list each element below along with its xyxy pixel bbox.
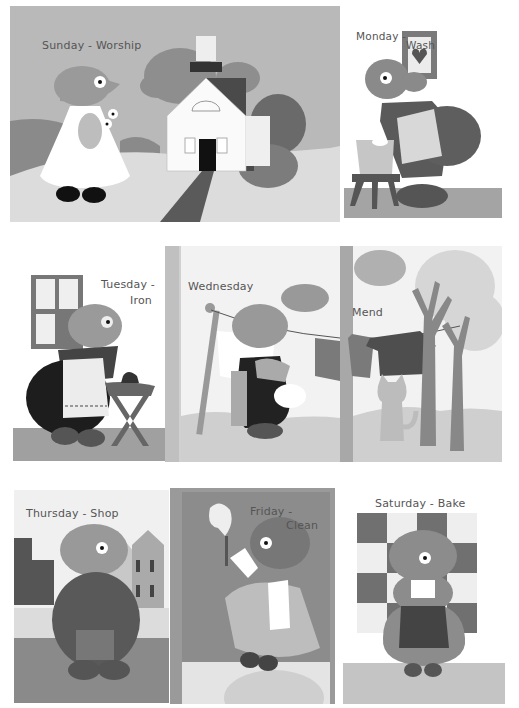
panel-friday: Friday - Clean [170, 488, 335, 704]
label-friday-clean: Clean [286, 519, 318, 532]
mend-illustration [340, 246, 502, 462]
panel-wednesday: Wednesday [165, 246, 340, 462]
iron-icon [121, 372, 139, 383]
wednesday-illustration [165, 246, 340, 462]
panel-mend: Mend [340, 246, 502, 462]
label-sunday: Sunday - Worship [42, 39, 142, 52]
label-monday-wash-visible: Wash [406, 39, 435, 51]
panel-sunday: Sunday - Worship [10, 6, 340, 222]
panel-tuesday: Tuesday - Iron [13, 248, 165, 461]
panel-thursday: Thursday - Shop [14, 490, 169, 703]
label-saturday: Saturday - Bake [375, 497, 466, 510]
thursday-illustration [14, 490, 169, 703]
apron-bib [411, 580, 435, 598]
label-wednesday: Wednesday [188, 280, 254, 293]
label-thursday: Thursday - Shop [26, 507, 119, 520]
label-mend: Mend [352, 306, 383, 319]
cat [378, 374, 407, 441]
label-tuesday: Tuesday - [101, 278, 155, 291]
apron [399, 606, 449, 648]
label-monday: Monday - [356, 30, 406, 42]
steeple [196, 36, 216, 61]
saturday-illustration [343, 488, 505, 704]
feather-duster [209, 503, 232, 536]
label-tuesday-iron: Iron [130, 294, 152, 307]
panel-saturday: Saturday - Bake [343, 488, 505, 704]
panel-monday: Monday - Wash Wash [342, 6, 504, 222]
shopping-basket [76, 630, 114, 660]
label-friday: Friday - [250, 505, 292, 518]
church-door [199, 139, 216, 171]
